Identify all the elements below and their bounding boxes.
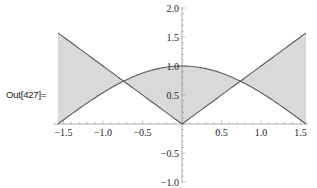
x-tick-label: −1.0 (94, 127, 112, 138)
y-tick-label: 1.0 (167, 61, 180, 72)
x-tick-label: −0.5 (133, 127, 151, 138)
y-tick-label: 1.5 (167, 32, 180, 43)
y-tick-label: −0.5 (161, 148, 179, 159)
x-tick-label: 1.0 (255, 127, 268, 138)
y-tick-label: 2.0 (167, 3, 180, 14)
x-tick-label: 1.5 (294, 127, 307, 138)
x-tick-label: −1.5 (54, 127, 72, 138)
plot-area: −1.5−1.0−0.50.51.01.52.01.51.00.5−0.5−1.… (0, 0, 317, 188)
y-tick-label: −1.0 (161, 177, 179, 188)
x-tick-label: 0.5 (215, 127, 228, 138)
y-tick-label: 0.5 (167, 90, 180, 101)
